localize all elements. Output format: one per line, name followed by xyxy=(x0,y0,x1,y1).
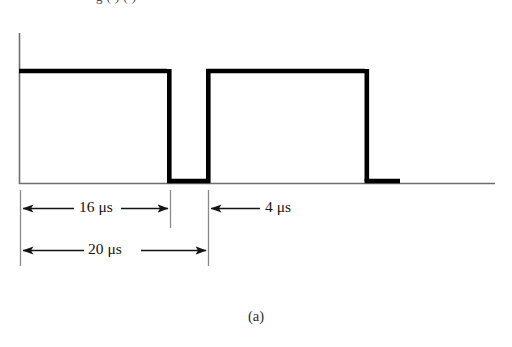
dimension-label-gap-width: 4 μs xyxy=(262,199,294,215)
waveform-diagram-svg xyxy=(0,0,512,347)
pulse-waveform-figure: g ( ) ( ) xyxy=(0,0,512,347)
waveform-trace-group xyxy=(19,69,400,183)
dimension-label-period: 20 μs xyxy=(85,241,125,257)
dimension-label-pulse-width: 16 μs xyxy=(76,199,116,215)
figure-caption: (a) xyxy=(0,308,512,325)
axes-group xyxy=(19,33,495,184)
